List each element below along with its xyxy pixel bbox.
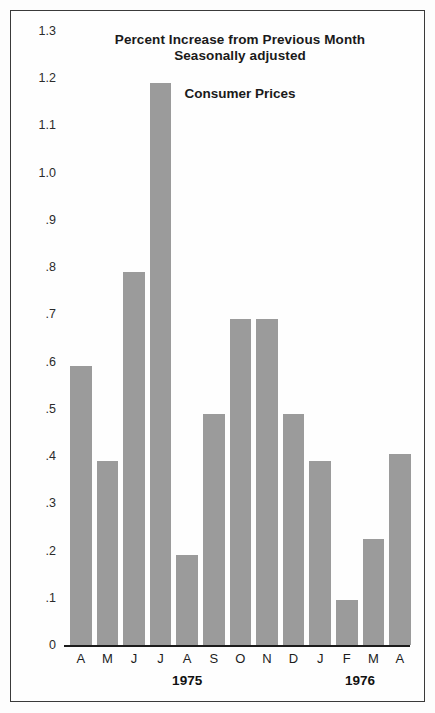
x-tick-label: F (343, 651, 351, 666)
x-tick-label: N (262, 651, 271, 666)
bar (309, 461, 331, 645)
x-tick-label: A (396, 651, 405, 666)
y-tick-label: .3 (14, 496, 56, 510)
y-tick-label: .8 (14, 260, 56, 274)
y-tick-label: .9 (14, 213, 56, 227)
y-tick-label: .7 (14, 307, 56, 321)
y-tick-label: .1 (14, 591, 56, 605)
y-tick-label: 1.3 (14, 24, 56, 38)
x-tick-label: D (289, 651, 298, 666)
plot-area: 1.31.21.11.0.9.8.7.6.5.4.3.2.10 AMJJASON… (0, 0, 435, 713)
bar (389, 454, 411, 645)
y-tick-label: .5 (14, 402, 56, 416)
y-tick-label: 0 (14, 638, 56, 652)
y-tick-label: .2 (14, 544, 56, 558)
x-tick-label: O (235, 651, 245, 666)
x-tick-label: M (102, 651, 113, 666)
x-axis-line (64, 645, 410, 647)
y-tick-label: 1.2 (14, 71, 56, 85)
x-tick-label: J (317, 651, 324, 666)
x-tick-label: J (131, 651, 138, 666)
chart-figure: Percent Increase from Previous MonthSeas… (0, 0, 435, 713)
bar (203, 414, 225, 645)
bar (336, 600, 358, 645)
bar (70, 366, 92, 645)
bar (256, 319, 278, 645)
x-tick-label: J (157, 651, 164, 666)
x-tick-label: A (183, 651, 192, 666)
x-tick-label: A (76, 651, 85, 666)
y-tick-label: .4 (14, 449, 56, 463)
bar (283, 414, 305, 645)
year-group-label: 1975 (172, 673, 202, 688)
bar (150, 83, 172, 645)
x-tick-label: S (209, 651, 218, 666)
bar (363, 539, 385, 645)
bar (97, 461, 119, 645)
bar (230, 319, 252, 645)
y-axis-ticks: 1.31.21.11.0.9.8.7.6.5.4.3.2.10 (14, 0, 56, 713)
y-tick-label: 1.0 (14, 166, 56, 180)
y-tick-label: 1.1 (14, 118, 56, 132)
y-tick-label: .6 (14, 355, 56, 369)
x-tick-label: M (368, 651, 379, 666)
bar (123, 272, 145, 645)
bar (176, 555, 198, 645)
year-group-label: 1976 (345, 673, 375, 688)
